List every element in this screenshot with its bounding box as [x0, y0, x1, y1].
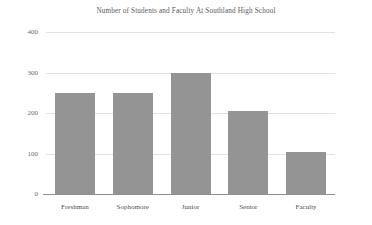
bar-freshman [55, 93, 95, 194]
y-tick-label-400: 400 [0, 28, 38, 36]
x-tick-label-faculty: Faculty [266, 203, 346, 212]
gridline-0 [46, 194, 335, 195]
bar-faculty [286, 152, 326, 195]
bar-chart: Number of Students and Faculty At Southl… [0, 0, 372, 225]
chart-title: Number of Students and Faculty At Southl… [0, 6, 372, 16]
bar-sophomore [113, 93, 153, 194]
y-tick-label-300: 300 [0, 69, 38, 77]
y-tick-label-100: 100 [0, 150, 38, 158]
plot-area [46, 32, 335, 194]
bar-senior [228, 111, 268, 194]
y-tick-label-200: 200 [0, 109, 38, 117]
gridline-400 [46, 32, 335, 33]
bar-junior [171, 73, 211, 195]
y-tick-label-0: 0 [0, 190, 38, 198]
